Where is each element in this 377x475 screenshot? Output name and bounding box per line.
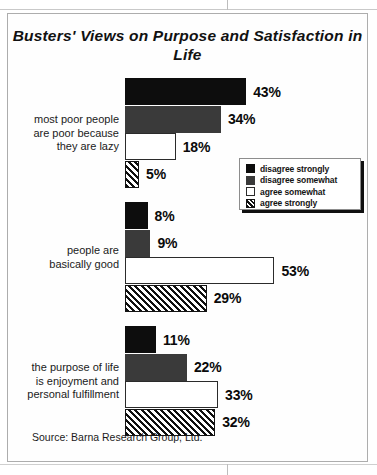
bar-value-label: 9% xyxy=(157,235,177,251)
category-label-line: basically good xyxy=(14,257,119,271)
bar-disagree-strongly[interactable] xyxy=(125,202,148,229)
bar-disagree-strongly[interactable] xyxy=(125,326,156,353)
bar-row: 34% xyxy=(125,106,369,133)
scan-edge-divider-top xyxy=(227,0,228,10)
bar-row: 33% xyxy=(125,381,369,408)
legend-item-label: disagree strongly xyxy=(260,164,329,174)
category-label: most poor people are poor because they a… xyxy=(14,113,119,154)
bar-value-label: 33% xyxy=(225,387,252,403)
bar-value-label: 11% xyxy=(163,332,190,348)
bar-stack: 8% 9% 53% 29% xyxy=(125,202,369,312)
bar-disagree-somewhat[interactable] xyxy=(125,230,150,257)
category-label-line: they are lazy xyxy=(14,140,119,154)
legend-item-label: agree somewhat xyxy=(260,187,325,197)
source-note: Source: Barna Research Group, Ltd. xyxy=(32,431,202,443)
scan-edge-line-bottom xyxy=(0,464,377,465)
bar-row: 43% xyxy=(125,78,369,105)
bar-value-label: 43% xyxy=(253,84,280,100)
legend-item-agree-strongly[interactable]: agree strongly xyxy=(246,198,355,209)
bar-agree-strongly[interactable] xyxy=(125,285,207,312)
legend-item-disagree-somewhat[interactable]: disagree somewhat xyxy=(246,175,355,186)
bar-value-label: 34% xyxy=(228,111,255,127)
scan-edge-line-top xyxy=(0,9,377,10)
bar-group: the purpose of life is enjoyment and per… xyxy=(8,326,369,436)
scan-edge-divider-bottom xyxy=(227,464,228,475)
category-label-line: personal fulfillment xyxy=(14,388,119,402)
bar-agree-strongly[interactable] xyxy=(125,161,139,188)
bar-value-label: 29% xyxy=(214,290,241,306)
category-label-line: the purpose of life xyxy=(14,361,119,375)
bar-value-label: 5% xyxy=(146,166,166,182)
bar-disagree-somewhat[interactable] xyxy=(125,106,221,133)
bar-row: 11% xyxy=(125,326,369,353)
bar-value-label: 53% xyxy=(281,263,308,279)
bar-value-label: 32% xyxy=(222,414,249,430)
category-label: people are basically good xyxy=(14,244,119,271)
category-label-line: people are xyxy=(14,244,119,258)
bar-agree-somewhat[interactable] xyxy=(125,257,274,284)
bar-disagree-strongly[interactable] xyxy=(125,78,246,105)
bar-row: 29% xyxy=(125,285,369,312)
legend-item-label: disagree somewhat xyxy=(260,175,337,185)
bar-agree-somewhat[interactable] xyxy=(125,381,218,408)
legend-item-disagree-strongly[interactable]: disagree strongly xyxy=(246,163,355,174)
category-label: the purpose of life is enjoyment and per… xyxy=(14,361,119,402)
bar-value-label: 8% xyxy=(155,208,175,224)
chart-plot-area: most poor people are poor because they a… xyxy=(8,74,369,429)
legend-swatch-icon xyxy=(246,187,255,196)
chart-title: Busters' Views on Purpose and Satisfacti… xyxy=(8,26,367,64)
category-label-line: are poor because xyxy=(14,126,119,140)
bar-row: 18% xyxy=(125,133,369,160)
legend-item-label: agree strongly xyxy=(260,198,317,208)
category-label-line: most poor people xyxy=(14,113,119,127)
category-label-line: is enjoyment and xyxy=(14,374,119,388)
bar-group: people are basically good 8% 9% 53% xyxy=(8,202,369,312)
bar-row: 53% xyxy=(125,257,369,284)
legend-swatch-icon xyxy=(246,176,255,185)
legend-item-agree-somewhat[interactable]: agree somewhat xyxy=(246,186,355,197)
bar-row: 22% xyxy=(125,354,369,381)
chart-figure-frame: Busters' Views on Purpose and Satisfacti… xyxy=(7,13,368,462)
bar-value-label: 18% xyxy=(183,139,210,155)
legend-swatch-icon xyxy=(246,199,255,208)
bar-stack: 11% 22% 33% 32% xyxy=(125,326,369,436)
legend-swatch-icon xyxy=(246,164,255,173)
bar-value-label: 22% xyxy=(194,359,221,375)
bar-disagree-somewhat[interactable] xyxy=(125,354,187,381)
chart-legend: disagree strongly disagree somewhat agre… xyxy=(239,158,361,210)
bar-agree-somewhat[interactable] xyxy=(125,133,176,160)
bar-row: 9% xyxy=(125,230,369,257)
